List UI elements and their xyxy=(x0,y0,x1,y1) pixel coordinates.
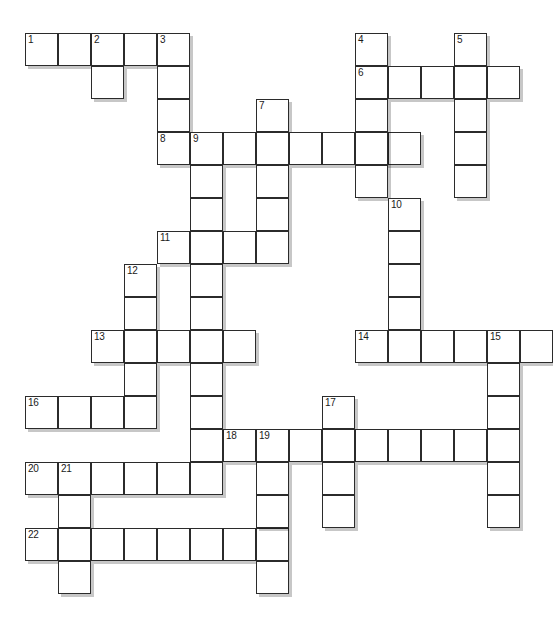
crossword-cell[interactable] xyxy=(421,66,454,99)
crossword-cell-numbered[interactable]: 18 xyxy=(223,429,256,462)
crossword-cell[interactable] xyxy=(487,363,520,396)
crossword-cell[interactable] xyxy=(256,528,289,561)
crossword-cell[interactable] xyxy=(388,231,421,264)
crossword-cell-numbered[interactable]: 6 xyxy=(355,66,388,99)
crossword-cell-numbered[interactable]: 7 xyxy=(256,99,289,132)
crossword-cell[interactable] xyxy=(157,528,190,561)
crossword-cell[interactable] xyxy=(58,528,91,561)
crossword-cell[interactable] xyxy=(322,495,355,528)
crossword-cell[interactable] xyxy=(454,330,487,363)
crossword-cell[interactable] xyxy=(256,231,289,264)
crossword-cell[interactable] xyxy=(124,297,157,330)
crossword-cell[interactable] xyxy=(388,330,421,363)
crossword-cell[interactable] xyxy=(487,462,520,495)
crossword-cell[interactable] xyxy=(289,132,322,165)
crossword-cell[interactable] xyxy=(256,462,289,495)
crossword-cell[interactable] xyxy=(157,462,190,495)
crossword-cell[interactable] xyxy=(157,66,190,99)
crossword-cell[interactable] xyxy=(58,396,91,429)
crossword-cell[interactable] xyxy=(124,396,157,429)
crossword-cell[interactable] xyxy=(190,363,223,396)
crossword-cell[interactable] xyxy=(454,99,487,132)
crossword-cell-numbered[interactable]: 11 xyxy=(157,231,190,264)
crossword-cell[interactable] xyxy=(454,165,487,198)
crossword-cell[interactable] xyxy=(190,231,223,264)
crossword-cell[interactable] xyxy=(91,396,124,429)
crossword-cell[interactable] xyxy=(91,66,124,99)
crossword-cell[interactable] xyxy=(388,66,421,99)
crossword-cell[interactable] xyxy=(289,429,322,462)
crossword-cell-numbered[interactable]: 1 xyxy=(25,33,58,66)
crossword-cell[interactable] xyxy=(190,297,223,330)
crossword-cell[interactable] xyxy=(388,132,421,165)
crossword-cell[interactable] xyxy=(355,132,388,165)
crossword-cell[interactable] xyxy=(124,528,157,561)
crossword-cell[interactable] xyxy=(157,330,190,363)
crossword-cell[interactable] xyxy=(190,264,223,297)
crossword-cell[interactable] xyxy=(487,495,520,528)
crossword-cell[interactable] xyxy=(454,66,487,99)
crossword-cell[interactable] xyxy=(124,462,157,495)
crossword-cell[interactable] xyxy=(256,198,289,231)
crossword-cell-numbered[interactable]: 16 xyxy=(25,396,58,429)
crossword-cell[interactable] xyxy=(223,330,256,363)
crossword-cell[interactable] xyxy=(322,429,355,462)
crossword-cell[interactable] xyxy=(487,396,520,429)
crossword-cell[interactable] xyxy=(355,99,388,132)
crossword-cell-numbered[interactable]: 2 xyxy=(91,33,124,66)
crossword-cell-numbered[interactable]: 4 xyxy=(355,33,388,66)
crossword-cell[interactable] xyxy=(190,462,223,495)
crossword-cell[interactable] xyxy=(454,132,487,165)
crossword-cell[interactable] xyxy=(157,99,190,132)
crossword-cell[interactable] xyxy=(454,429,487,462)
crossword-cell[interactable] xyxy=(223,132,256,165)
crossword-cell-numbered[interactable]: 9 xyxy=(190,132,223,165)
crossword-cell[interactable] xyxy=(190,528,223,561)
crossword-cell[interactable] xyxy=(520,330,553,363)
crossword-cell[interactable] xyxy=(256,132,289,165)
crossword-cell[interactable] xyxy=(355,165,388,198)
crossword-cell[interactable] xyxy=(421,429,454,462)
crossword-cell[interactable] xyxy=(190,396,223,429)
crossword-cell[interactable] xyxy=(124,330,157,363)
crossword-cell[interactable] xyxy=(487,66,520,99)
crossword-cell[interactable] xyxy=(190,198,223,231)
crossword-cell-numbered[interactable]: 17 xyxy=(322,396,355,429)
crossword-cell-numbered[interactable]: 19 xyxy=(256,429,289,462)
crossword-cell[interactable] xyxy=(58,561,91,594)
crossword-cell[interactable] xyxy=(421,330,454,363)
crossword-cell[interactable] xyxy=(355,429,388,462)
crossword-cell-numbered[interactable]: 21 xyxy=(58,462,91,495)
crossword-cell[interactable] xyxy=(322,132,355,165)
crossword-cell[interactable] xyxy=(91,462,124,495)
crossword-cell[interactable] xyxy=(190,429,223,462)
crossword-cell[interactable] xyxy=(256,561,289,594)
crossword-cell[interactable] xyxy=(388,297,421,330)
crossword-cell[interactable] xyxy=(91,528,124,561)
crossword-cell[interactable] xyxy=(124,33,157,66)
crossword-cell-numbered[interactable]: 14 xyxy=(355,330,388,363)
crossword-cell[interactable] xyxy=(58,33,91,66)
crossword-cell[interactable] xyxy=(223,528,256,561)
crossword-cell[interactable] xyxy=(487,429,520,462)
crossword-cell[interactable] xyxy=(256,165,289,198)
crossword-cell[interactable] xyxy=(256,495,289,528)
crossword-cell-numbered[interactable]: 5 xyxy=(454,33,487,66)
crossword-cell[interactable] xyxy=(190,330,223,363)
crossword-cell[interactable] xyxy=(388,429,421,462)
crossword-cell[interactable] xyxy=(322,462,355,495)
crossword-cell-numbered[interactable]: 12 xyxy=(124,264,157,297)
crossword-cell[interactable] xyxy=(223,231,256,264)
crossword-cell[interactable] xyxy=(58,495,91,528)
crossword-cell[interactable] xyxy=(124,363,157,396)
crossword-cell-numbered[interactable]: 20 xyxy=(25,462,58,495)
crossword-cell-numbered[interactable]: 13 xyxy=(91,330,124,363)
crossword-cell-numbered[interactable]: 8 xyxy=(157,132,190,165)
crossword-cell-numbered[interactable]: 22 xyxy=(25,528,58,561)
crossword-cell[interactable] xyxy=(190,165,223,198)
crossword-cell[interactable] xyxy=(388,264,421,297)
crossword-cell-numbered[interactable]: 10 xyxy=(388,198,421,231)
crossword-cell-numbered[interactable]: 15 xyxy=(487,330,520,363)
crossword-cell-numbered[interactable]: 3 xyxy=(157,33,190,66)
